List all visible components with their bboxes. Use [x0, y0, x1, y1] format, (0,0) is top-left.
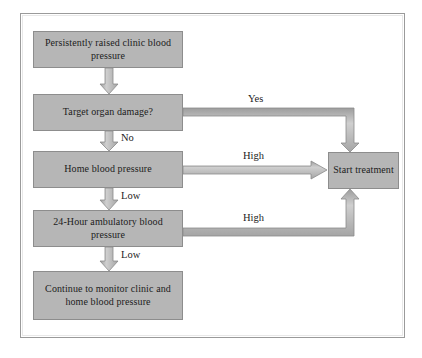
node-start-treatment[interactable]: Start treatment — [328, 152, 399, 189]
node-clinic-bp-label: Persistently raised clinic blood pressur… — [34, 37, 182, 61]
edge-label-low-ambulatory: Low — [121, 249, 140, 260]
node-home-bp[interactable]: Home blood pressure — [33, 151, 183, 188]
node-ambulatory-bp-label: 24-Hour ambulatory blood pressure — [34, 216, 182, 240]
node-home-bp-label: Home blood pressure — [60, 163, 155, 175]
node-ambulatory-bp[interactable]: 24-Hour ambulatory blood pressure — [33, 210, 183, 247]
edge-label-no: No — [121, 132, 134, 143]
edge-label-yes: Yes — [248, 93, 263, 104]
edge-label-high-ambulatory: High — [243, 212, 264, 223]
node-continue-monitor-label: Continue to monitor clinic and home bloo… — [34, 283, 182, 307]
diagram-canvas: Persistently raised clinic blood pressur… — [0, 0, 422, 358]
node-target-organ-label: Target organ damage? — [59, 106, 157, 118]
node-target-organ[interactable]: Target organ damage? — [33, 94, 183, 131]
node-continue-monitor[interactable]: Continue to monitor clinic and home bloo… — [33, 271, 183, 320]
node-clinic-bp[interactable]: Persistently raised clinic blood pressur… — [33, 31, 183, 68]
node-start-treatment-label: Start treatment — [329, 164, 398, 176]
edge-label-low-home: Low — [121, 190, 140, 201]
edge-label-high-home: High — [243, 150, 264, 161]
